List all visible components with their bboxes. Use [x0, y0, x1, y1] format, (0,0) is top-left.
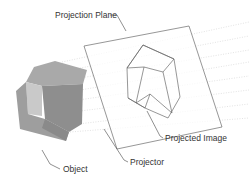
projection-diagram: Projection Plane Object Projector Projec…: [0, 0, 249, 182]
label-projected-image: Projected Image: [165, 133, 227, 143]
cube-top-face: [26, 61, 87, 86]
label-projection-plane: Projection Plane: [55, 10, 117, 20]
diagram-graphic: Projection Plane Object Projector Projec…: [0, 0, 249, 182]
object-cube: [16, 61, 87, 141]
leader-object: [42, 150, 60, 169]
cube-notch-face: [26, 82, 42, 116]
label-projector: Projector: [130, 157, 164, 167]
label-object: Object: [63, 164, 88, 174]
